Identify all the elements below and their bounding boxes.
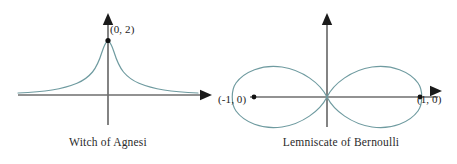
lemniscate-point-label-neg1-0: (-1, 0): [218, 93, 246, 105]
witch-point-0-2-marker: [105, 38, 110, 43]
caption-witch-of-agnesi: Witch of Agnesi: [0, 136, 216, 148]
lemniscate-point-neg1-0-marker: [252, 95, 257, 100]
caption-lemniscate-of-bernoulli: Lemniscate of Bernoulli: [225, 136, 457, 148]
witch-point-label-0-2: (0, 2): [110, 23, 134, 35]
lemniscate-point-label-1-0: (1, 0): [417, 93, 441, 105]
